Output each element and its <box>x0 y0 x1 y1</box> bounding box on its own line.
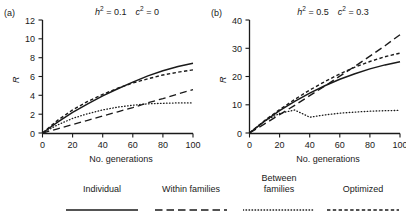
svg-text:100: 100 <box>185 140 200 150</box>
figure-legend: Individual Within families Between famil… <box>0 172 407 216</box>
svg-text:8: 8 <box>30 53 35 63</box>
panel-a-y-ticklabels: 12 10 8 6 4 2 0 <box>25 16 35 139</box>
svg-text:80: 80 <box>158 140 168 150</box>
svg-text:6: 6 <box>30 72 35 82</box>
legend-item-between-families: Between families <box>236 172 322 216</box>
panel-a-series-individual <box>43 63 194 133</box>
panel-a-x-ticklabels: 0 20 40 60 80 100 <box>40 140 201 150</box>
svg-text:0: 0 <box>247 140 252 150</box>
panel-a-series-within-families <box>43 90 194 133</box>
legend-label-between-families: Between families <box>236 172 322 194</box>
svg-text:10: 10 <box>25 34 35 44</box>
legend-item-within-families: Within families <box>143 172 239 216</box>
legend-sample-optimized <box>321 208 405 211</box>
svg-text:0: 0 <box>237 129 242 139</box>
panel-b-series-optimized <box>250 53 401 133</box>
panel-b-series-individual <box>250 62 401 133</box>
svg-text:60: 60 <box>335 140 345 150</box>
svg-text:100: 100 <box>392 140 406 150</box>
legend-item-optimized: Optimized <box>321 172 405 216</box>
svg-text:40: 40 <box>98 140 108 150</box>
legend-sample-individual <box>60 208 144 211</box>
svg-text:2: 2 <box>30 110 35 120</box>
panel-b-x-ticklabels: 0 20 40 60 80 100 <box>247 140 406 150</box>
panel-b-series-between-families <box>250 110 401 133</box>
svg-text:4: 4 <box>30 91 35 101</box>
svg-text:30: 30 <box>232 44 242 54</box>
svg-text:20: 20 <box>232 72 242 82</box>
svg-text:0: 0 <box>30 129 35 139</box>
svg-text:20: 20 <box>275 140 285 150</box>
panel-a-series-optimized <box>43 70 194 133</box>
svg-text:40: 40 <box>305 140 315 150</box>
svg-text:80: 80 <box>365 140 375 150</box>
panel-b: (b) h2 = 0.5c2 = 0.3 R No. generations <box>203 0 406 172</box>
svg-text:60: 60 <box>128 140 138 150</box>
panel-b-plot: 40 30 20 10 0 0 20 40 60 80 100 <box>203 0 406 172</box>
svg-text:40: 40 <box>232 16 242 26</box>
legend-sample-within-families <box>143 208 239 211</box>
legend-label-individual: Individual <box>60 172 144 195</box>
figure-root: (a) h2 = 0.1c2 = 0 R No. generations <box>0 0 407 216</box>
legend-label-optimized: Optimized <box>321 172 405 195</box>
panel-a-plot: 12 10 8 6 4 2 0 0 20 40 60 80 100 <box>0 0 203 172</box>
svg-text:0: 0 <box>40 140 45 150</box>
panel-b-series-within-families <box>250 35 401 133</box>
svg-text:12: 12 <box>25 16 35 26</box>
legend-label-within-families: Within families <box>143 172 239 195</box>
svg-text:20: 20 <box>68 140 78 150</box>
panel-a: (a) h2 = 0.1c2 = 0 R No. generations <box>0 0 203 172</box>
panel-b-y-ticklabels: 40 30 20 10 0 <box>232 16 242 139</box>
svg-text:10: 10 <box>232 100 242 110</box>
legend-sample-between-families <box>236 208 322 211</box>
legend-item-individual: Individual <box>60 172 144 216</box>
